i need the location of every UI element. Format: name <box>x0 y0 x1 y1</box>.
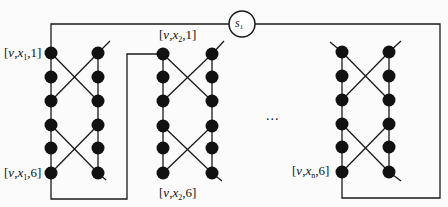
label-v: v <box>8 45 14 60</box>
diagram-canvas: s1 [v,x1,1] [v,x1,6] [v,x2,1] [v,x2,6] .… <box>0 0 448 207</box>
label-v: v <box>296 163 302 178</box>
source-sub: 1 <box>240 23 244 31</box>
diagram-graphics <box>0 0 448 207</box>
label-n: 6 <box>318 163 325 178</box>
label-n: 1 <box>185 27 192 42</box>
label-g2-top: [v,x2,1] <box>159 28 196 44</box>
gadget-x1 <box>51 41 110 180</box>
label-n: 6 <box>185 185 192 200</box>
gadget-x2 <box>163 41 224 181</box>
label-v: v <box>163 185 169 200</box>
label-v: v <box>163 27 169 42</box>
label-sub: n <box>311 171 315 180</box>
source-node-label: s1 <box>235 16 243 31</box>
label-sub: 2 <box>178 193 182 202</box>
wire-top-rail <box>51 24 229 53</box>
label-gn-bottom: [v,xn,6] <box>292 164 329 180</box>
gadget-ellipsis: ... <box>266 108 280 124</box>
label-g1-top: [v,x1,1] <box>4 46 41 62</box>
label-g2-bottom: [v,x2,6] <box>159 186 196 202</box>
vertex-nodes <box>45 46 396 180</box>
gadget-xn <box>330 41 401 181</box>
label-n: 6 <box>30 165 37 180</box>
label-sub: 1 <box>23 53 27 62</box>
wire-g1-to-g2 <box>51 54 163 199</box>
label-v: v <box>8 165 14 180</box>
label-sub: 2 <box>178 35 182 44</box>
label-sub: 1 <box>23 173 27 182</box>
label-n: 1 <box>30 45 37 60</box>
label-g1-bottom: [v,x1,6] <box>4 166 41 182</box>
